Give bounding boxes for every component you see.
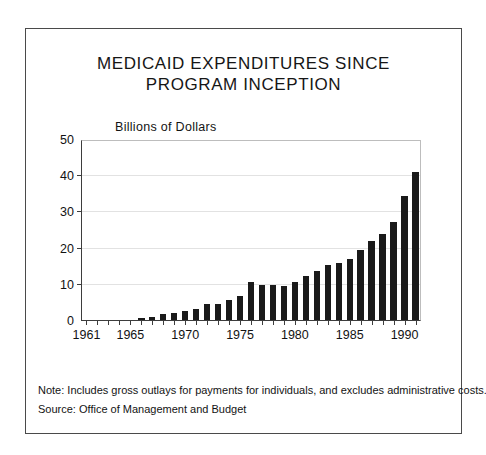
x-tick-mark	[372, 321, 373, 325]
x-tick-mark	[273, 321, 274, 325]
x-tick-label: 1975	[226, 328, 254, 342]
x-tick-mark	[350, 321, 351, 325]
chart-figure: MEDICAID EXPENDITURES SINCE PROGRAM INCE…	[25, 28, 462, 434]
x-tick-mark	[361, 321, 362, 325]
x-tick-mark	[196, 321, 197, 325]
x-tick-mark	[383, 321, 384, 325]
x-tick-mark	[185, 321, 186, 325]
plot-frame	[81, 140, 421, 321]
x-tick-label: 1980	[281, 328, 309, 342]
x-tick-mark	[295, 321, 296, 325]
x-tick-mark	[416, 321, 417, 325]
x-tick-mark	[240, 321, 241, 325]
x-tick-label: 1970	[171, 328, 199, 342]
x-tick-mark	[152, 321, 153, 325]
footnotes: Note: Includes gross outlays for payment…	[38, 381, 450, 419]
title-line-2: PROGRAM INCEPTION	[26, 74, 461, 95]
x-tick-mark	[405, 321, 406, 325]
x-tick-mark	[339, 321, 340, 325]
y-tick-label: 20	[60, 242, 74, 256]
source-line: Source: Office of Management and Budget	[38, 400, 450, 419]
y-tick-label: 0	[67, 314, 74, 328]
y-axis-label: Billions of Dollars	[115, 120, 217, 134]
x-tick-mark	[86, 321, 87, 325]
x-tick-mark	[394, 321, 395, 325]
note-line: Note: Includes gross outlays for payment…	[38, 381, 450, 400]
x-tick-mark	[262, 321, 263, 325]
x-tick-label: 1985	[336, 328, 364, 342]
x-tick-mark	[218, 321, 219, 325]
y-tick-label: 30	[60, 205, 74, 219]
x-tick-mark	[207, 321, 208, 325]
x-tick-mark	[108, 321, 109, 325]
x-tick-mark	[119, 321, 120, 325]
y-tick-label: 40	[60, 169, 74, 183]
x-tick-mark	[306, 321, 307, 325]
x-tick-mark	[130, 321, 131, 325]
x-tick-label: 1990	[391, 328, 419, 342]
y-tick-label: 10	[60, 278, 74, 292]
x-tick-mark	[163, 321, 164, 325]
x-tick-mark	[328, 321, 329, 325]
x-tick-label: 1961	[73, 328, 101, 342]
y-tick-label: 50	[60, 133, 74, 147]
x-tick-mark	[229, 321, 230, 325]
x-tick-label: 1965	[116, 328, 144, 342]
x-tick-mark	[284, 321, 285, 325]
x-tick-mark	[251, 321, 252, 325]
x-tick-mark	[174, 321, 175, 325]
title-line-1: MEDICAID EXPENDITURES SINCE	[26, 53, 461, 74]
chart-title: MEDICAID EXPENDITURES SINCE PROGRAM INCE…	[26, 53, 461, 95]
x-tick-mark	[317, 321, 318, 325]
x-tick-mark	[141, 321, 142, 325]
x-tick-mark	[97, 321, 98, 325]
plot-area: Billions of Dollars 01020304050 19611965…	[81, 140, 421, 321]
